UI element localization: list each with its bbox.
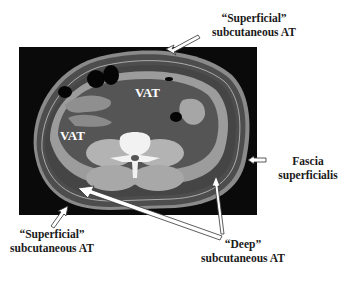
label-fascia-line1: Fascia: [263, 154, 352, 168]
bowel-gas: [165, 77, 173, 81]
bowel-gas: [170, 112, 182, 122]
bowel-gas: [87, 70, 105, 88]
label-superficial-bottom-line2: subcutaneous AT: [2, 241, 102, 255]
vat-label-upper: VAT: [135, 85, 160, 100]
vat-label-left: VAT: [60, 128, 85, 143]
bowel-gas: [103, 65, 119, 85]
bowel-gas: [58, 86, 72, 98]
right-paraspinal: [132, 165, 184, 191]
label-superficial-bottom: “Superficial” subcutaneous AT: [2, 227, 102, 255]
spinal-canal: [131, 155, 139, 161]
label-deep-line1: “Deep”: [193, 237, 293, 251]
label-superficial-bottom-line1: “Superficial”: [2, 227, 102, 241]
label-fascia-line2: superficialis: [263, 168, 352, 182]
label-superficial-top: “Superficial” subcutaneous AT: [204, 11, 304, 39]
label-superficial-top-line2: subcutaneous AT: [204, 25, 304, 39]
label-deep-subcutaneous: “Deep” subcutaneous AT: [193, 237, 293, 265]
label-deep-line2: subcutaneous AT: [193, 251, 293, 265]
label-fascia-superficialis: Fascia superficialis: [263, 154, 352, 182]
label-superficial-top-line1: “Superficial”: [204, 11, 304, 25]
